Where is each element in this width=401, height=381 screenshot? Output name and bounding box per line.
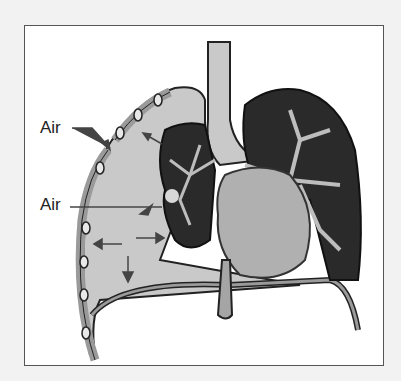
label-air-lung: Air bbox=[40, 195, 61, 215]
lung-tear bbox=[165, 189, 179, 203]
esophagus bbox=[218, 260, 232, 319]
pneumothorax-diagram bbox=[0, 0, 401, 381]
heart bbox=[217, 168, 310, 278]
label-air-entry: Air bbox=[40, 118, 61, 138]
